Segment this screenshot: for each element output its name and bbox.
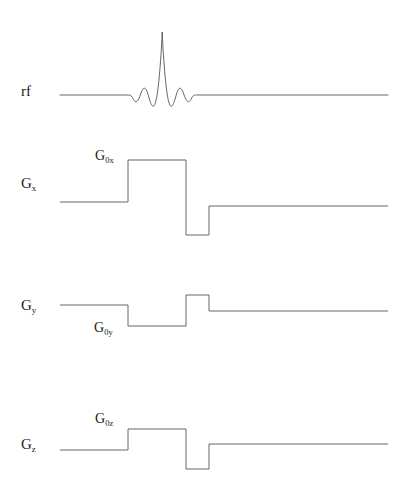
channel-label-gy-base: G <box>21 297 32 313</box>
amplitude-label-g0x: G0x <box>95 149 114 163</box>
rf-waveform <box>60 32 388 106</box>
channel-label-gx-subscript: x <box>32 183 37 193</box>
pulse-sequence-diagram: rf Gx Gy Gz G0x G0y G0z <box>0 0 406 488</box>
channel-label-gx-base: G <box>21 175 32 191</box>
amplitude-label-g0y-subscript: 0y <box>104 327 113 337</box>
channel-label-gz-subscript: z <box>32 444 36 454</box>
amplitude-label-g0y-base: G <box>94 320 104 335</box>
channel-label-gy: Gy <box>21 298 37 313</box>
channel-label-gz: Gz <box>21 437 36 452</box>
gz-waveform <box>60 429 388 469</box>
amplitude-label-g0x-base: G <box>95 148 105 163</box>
channel-label-gz-base: G <box>21 436 32 452</box>
waveform-canvas <box>0 0 406 488</box>
channel-label-gy-subscript: y <box>32 305 37 315</box>
channel-label-rf: rf <box>21 84 31 99</box>
amplitude-label-g0z: G0z <box>95 412 114 426</box>
amplitude-label-g0y: G0y <box>94 321 113 335</box>
gx-waveform <box>60 160 388 235</box>
amplitude-label-g0z-base: G <box>95 411 105 426</box>
amplitude-label-g0z-subscript: 0z <box>105 418 113 428</box>
channel-label-gx: Gx <box>21 176 37 191</box>
amplitude-label-g0x-subscript: 0x <box>105 155 114 165</box>
